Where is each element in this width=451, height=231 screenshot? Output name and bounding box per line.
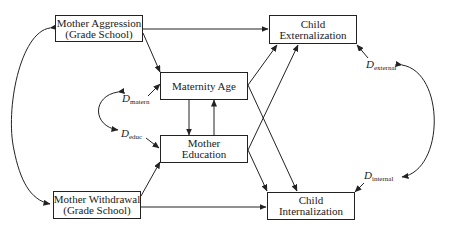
edge-maternity-age-to-externalization xyxy=(248,45,277,85)
disturbance-d-external: Dexternal xyxy=(366,58,397,72)
disturbance-d-matern: Dmatern xyxy=(122,92,149,106)
covariance-aggression-withdrawal xyxy=(11,28,50,204)
node-sublabel: (Grade School) xyxy=(63,205,131,216)
covariance-dexternal-dinternal xyxy=(402,65,434,177)
edge-dinternal-to-internalization xyxy=(355,183,364,192)
node-child-internalization: Child Internalization xyxy=(267,192,355,220)
node-mother-education: Mother Education xyxy=(160,135,248,163)
node-maternity-age: Maternity Age xyxy=(160,72,248,100)
node-label: Child xyxy=(301,19,325,30)
node-sublabel: Education xyxy=(182,149,227,160)
disturbance-d-educ: Deduc xyxy=(121,127,142,141)
edge-dmatern-to-maternity-age xyxy=(148,84,160,96)
node-child-externalization: Child Externalization xyxy=(269,15,357,44)
node-label: Mother Aggression xyxy=(57,18,142,29)
covariance-dmatern-deduc xyxy=(99,92,119,130)
node-label: Maternity Age xyxy=(172,81,236,92)
node-mother-aggression: Mother Aggression (Grade School) xyxy=(55,15,143,42)
disturbance-d-internal: Dinternal xyxy=(364,169,393,183)
node-mother-withdrawal: Mother Withdrawal (Grade School) xyxy=(53,191,141,219)
node-sublabel: Internalization xyxy=(279,206,343,217)
node-sublabel: (Grade School) xyxy=(65,29,133,40)
edge-aggression-to-maternity-age xyxy=(143,33,160,72)
edge-maternity-age-to-internalization xyxy=(248,85,297,191)
edge-deduc-to-education xyxy=(146,138,159,148)
edge-education-to-externalization xyxy=(248,45,298,150)
edge-dexternal-to-externalization xyxy=(357,45,368,58)
edge-withdrawal-to-education xyxy=(141,162,160,196)
edge-education-to-internalization xyxy=(248,150,267,191)
node-sublabel: Externalization xyxy=(279,30,346,41)
